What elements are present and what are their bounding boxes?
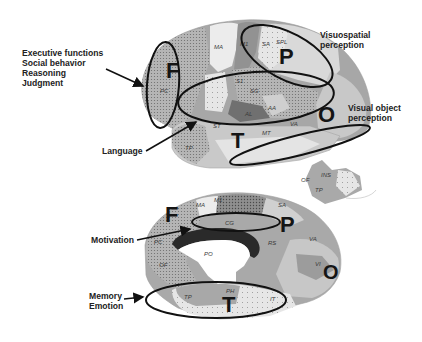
callout-line: Executive functions (22, 48, 103, 58)
area-label-of-inset: OF (301, 177, 310, 183)
medial-area-label-po: PO (204, 251, 213, 257)
callout-line: Emotion (89, 301, 123, 311)
medial-area-label-tp: TP (184, 294, 192, 300)
medial-area-label-of: OF (159, 262, 168, 268)
area-label-va: VA (290, 121, 298, 127)
area-label-ma: MA (214, 44, 223, 50)
callout-memory-emotion: Memory Emotion (89, 291, 123, 311)
callout-line: perception (320, 40, 364, 50)
medial-lobe-label-temporal: T (222, 292, 236, 317)
medial-area-label-pc: PC (154, 239, 163, 245)
callout-line: Social behavior (22, 58, 86, 68)
area-label-sa: SA (262, 41, 270, 47)
callout-line: Memory (89, 291, 122, 301)
medial-lobe-label-parietal: P (280, 212, 295, 237)
medial-brain-view: M1 MA SA CG PC PO OF RS VA VI TP PH IT F… (124, 193, 341, 320)
area-label-pc: PC (160, 88, 169, 94)
area-label-tp-inset: TP (315, 187, 323, 193)
callout-line: Motivation (91, 235, 134, 245)
brain-diagram: MA M1 SA SPL PC S1 SG AA AL ST VA MT TP … (0, 0, 422, 342)
area-label-ins: INS (321, 172, 331, 178)
callout-line: Language (102, 146, 143, 156)
lobe-label-temporal: T (231, 128, 245, 153)
medial-area-label-sa: SA (278, 202, 286, 208)
medial-area-label-vi: VI (315, 261, 321, 267)
medial-motor-fill (216, 194, 266, 214)
area-label-tp: TP (185, 145, 193, 151)
medial-area-label-rs: RS (268, 240, 276, 246)
callout-motivation: Motivation (91, 235, 134, 245)
medial-area-label-cg: CG (225, 220, 234, 226)
medial-lobe-label-frontal: F (165, 202, 178, 227)
area-label-s1: S1 (236, 78, 243, 84)
medial-area-label-m1: M1 (214, 197, 222, 203)
lobe-label-parietal: P (279, 44, 294, 69)
insula-inset: INS OF TP (301, 160, 376, 204)
area-label-aa: AA (267, 105, 276, 111)
area-label-sg: SG (250, 88, 259, 94)
area-label-mt: MT (262, 130, 272, 136)
callout-line: Visuospatial (320, 30, 370, 40)
callout-line: perception (348, 113, 392, 123)
executive-callout-arrow (106, 69, 143, 86)
callout-visual-object: Visual object perception (348, 103, 401, 123)
callout-line: Judgment (22, 78, 63, 88)
medial-lobe-label-occipital: O (323, 261, 339, 283)
callout-language: Language (102, 146, 143, 156)
medial-area-label-ma: MA (196, 202, 205, 208)
callout-visuospatial: Visuospatial perception (320, 30, 370, 50)
memory-callout-arrow (124, 297, 143, 299)
area-label-al: AL (244, 111, 252, 117)
medial-area-label-va: VA (309, 236, 317, 242)
callout-line: Reasoning (22, 68, 66, 78)
callout-executive-functions: Executive functions Social behavior Reas… (22, 48, 103, 88)
callout-line: Visual object (348, 103, 401, 113)
